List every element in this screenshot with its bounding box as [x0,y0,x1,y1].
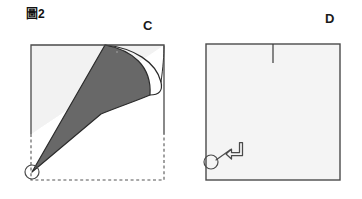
panel-d-square [206,44,340,180]
figure-canvas: 圖2 C D [0,0,362,199]
panel-d-group [204,44,340,180]
panel-c-group [25,45,164,180]
panel-c-apex-dot [116,51,117,52]
figure-graphics [0,0,362,199]
